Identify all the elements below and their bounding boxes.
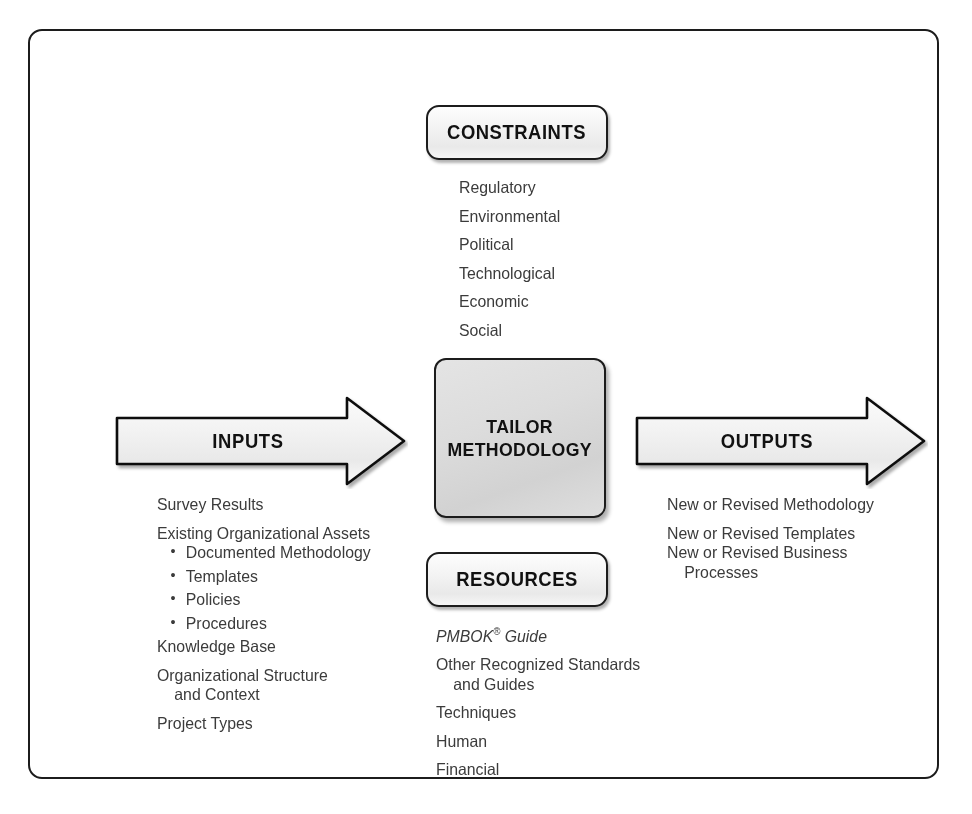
- list-item: Project Types: [157, 715, 371, 732]
- resources-box-label: RESOURCES: [456, 568, 578, 591]
- list-item: Technological: [459, 265, 560, 282]
- list-item-continuation: and Context: [157, 686, 371, 703]
- list-item: Financial: [436, 761, 640, 778]
- list-item-continuation: Processes: [667, 564, 874, 581]
- list-item: Political: [459, 236, 560, 253]
- list-item: Survey Results: [157, 496, 371, 513]
- tailor-methodology-label: TAILOR METHODOLOGY: [448, 415, 592, 461]
- outputs-arrow: OUTPUTS: [633, 393, 928, 489]
- resources-box: RESOURCES: [426, 552, 608, 607]
- list-item: Knowledge Base: [157, 638, 371, 655]
- outputs-arrow-label: OUTPUTS: [644, 393, 891, 489]
- list-item-pmbok: PMBOK® Guide: [436, 627, 640, 644]
- list-item: Social: [459, 322, 560, 339]
- inputs-list: Survey Results Existing Organizational A…: [157, 496, 380, 731]
- inputs-arrow-label: INPUTS: [124, 393, 372, 489]
- list-item: New or Revised Methodology: [667, 496, 874, 513]
- constraints-list: Regulatory Environmental Political Techn…: [459, 179, 564, 350]
- resources-list: PMBOK® Guide Other Recognized Standards …: [436, 627, 649, 778]
- list-item: Environmental: [459, 208, 560, 225]
- list-item: Organizational Structure: [157, 667, 371, 684]
- pmbok-suffix: Guide: [500, 627, 547, 645]
- list-item-bullet: Documented Methodology: [157, 544, 371, 561]
- list-item: Existing Organizational Assets: [157, 525, 371, 542]
- constraints-box-label: CONSTRAINTS: [448, 121, 587, 144]
- constraints-box: CONSTRAINTS: [426, 105, 608, 160]
- list-item: Techniques: [436, 704, 640, 721]
- list-item-bullet: Templates: [157, 568, 371, 585]
- figure-border: CONSTRAINTS Regulatory Environmental Pol…: [28, 29, 939, 779]
- list-item: New or Revised Business: [667, 544, 874, 561]
- inputs-arrow: INPUTS: [113, 393, 408, 489]
- registered-mark: ®: [493, 626, 500, 637]
- pmbok-text: PMBOK: [436, 627, 493, 645]
- list-item-bullet: Policies: [157, 591, 371, 608]
- list-item-bullet: Procedures: [157, 615, 371, 632]
- list-item-continuation: and Guides: [436, 676, 640, 693]
- list-item: Other Recognized Standards: [436, 656, 640, 673]
- list-item: Regulatory: [459, 179, 560, 196]
- list-item: New or Revised Templates: [667, 525, 874, 542]
- outputs-list: New or Revised Methodology New or Revise…: [667, 496, 883, 592]
- list-item: Human: [436, 733, 640, 750]
- list-item: Economic: [459, 293, 560, 310]
- tailor-methodology-box: TAILOR METHODOLOGY: [434, 358, 606, 518]
